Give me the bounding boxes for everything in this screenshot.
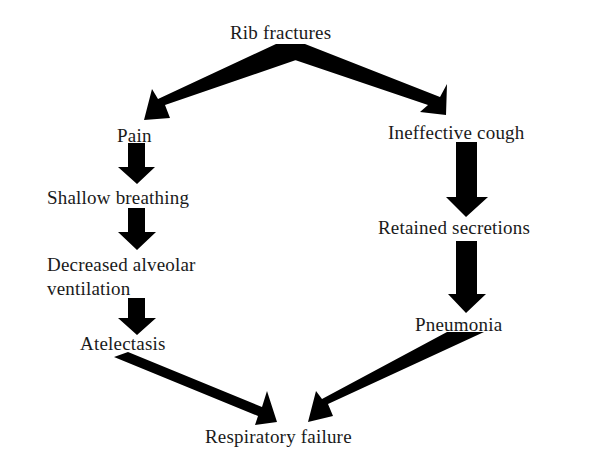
flowchart-canvas: Rib fractures Pain Shallow breathing Dec… — [0, 0, 591, 472]
arrow-atelectasis-to-failure — [114, 352, 277, 425]
arrow-decreased-to-atelectasis — [118, 298, 156, 335]
node-atelectasis: Atelectasis — [80, 333, 166, 354]
node-decreased-alveolar-line1: Decreased alveolar — [47, 254, 196, 275]
arrow-rib-to-pain — [144, 44, 305, 120]
node-pneumonia: Pneumonia — [415, 314, 502, 335]
node-retained-secretions: Retained secretions — [378, 217, 530, 238]
node-respiratory-failure: Respiratory failure — [205, 426, 352, 447]
node-pain: Pain — [117, 125, 152, 146]
arrow-rib-to-cough — [276, 44, 447, 115]
arrow-pneumonia-to-failure — [308, 332, 484, 422]
arrow-shallow-to-decreased — [118, 208, 156, 250]
node-decreased-alveolar-line2: ventilation — [47, 278, 130, 299]
node-rib-fractures: Rib fractures — [230, 22, 331, 43]
arrow-pain-to-shallow — [118, 143, 155, 184]
node-ineffective-cough: Ineffective cough — [388, 122, 525, 143]
arrow-cough-to-secretions — [446, 142, 488, 217]
node-shallow-breathing: Shallow breathing — [47, 187, 189, 208]
arrow-secretions-to-pneumonia — [448, 241, 486, 313]
